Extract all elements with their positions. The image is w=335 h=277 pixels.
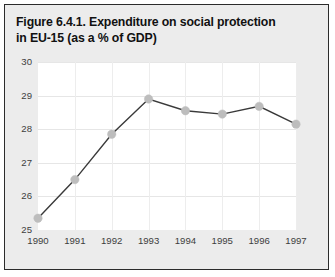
data-series-layer	[0, 0, 325, 266]
data-point-marker	[255, 102, 263, 110]
data-point-marker	[292, 120, 300, 128]
data-point-marker	[218, 110, 226, 118]
chart-plot-wrapper: 252627282930 199019911992199319941995199…	[0, 0, 325, 266]
data-point-marker	[71, 175, 79, 183]
series-markers	[34, 95, 300, 223]
data-point-marker	[181, 107, 189, 115]
data-point-marker	[144, 95, 152, 103]
data-point-marker	[108, 130, 116, 138]
data-point-marker	[34, 214, 42, 222]
series-line	[38, 99, 296, 218]
